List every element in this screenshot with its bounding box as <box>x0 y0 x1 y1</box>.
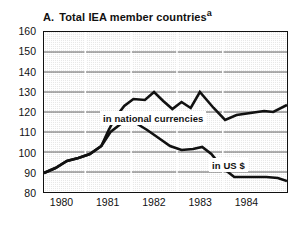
chart-title: A. Total IEA member countriesa <box>43 8 212 23</box>
y-axis-tick-label: 80 <box>2 187 36 199</box>
y-axis-tick-label: 110 <box>2 126 36 138</box>
y-axis-tick-label: 140 <box>2 66 36 78</box>
y-axis-tick-label: 160 <box>2 25 36 37</box>
y-axis-tick-label: 90 <box>2 167 36 179</box>
series-line-national-currencies <box>44 92 287 173</box>
x-axis-tick-label: 1984 <box>235 196 258 208</box>
series-label-national-currencies: in national currencies <box>100 111 206 125</box>
chart-title-main: Total IEA member countries <box>59 11 206 23</box>
x-axis-tick-label: 1980 <box>50 196 73 208</box>
y-axis-tick-label: 100 <box>2 147 36 159</box>
y-axis-tick-label: 120 <box>2 106 36 118</box>
series-paths <box>44 92 287 181</box>
footnote-marker: a <box>207 8 212 18</box>
y-axis-tick-label: 150 <box>2 45 36 57</box>
chart-title-prefix: A. <box>43 11 54 23</box>
chart-container: A. Total IEA member countriesa in nation… <box>0 0 301 235</box>
x-axis-tick-label: 1983 <box>188 196 211 208</box>
x-axis-tick-label: 1981 <box>96 196 119 208</box>
y-axis-tick-label: 130 <box>2 86 36 98</box>
x-axis-tick-label: 1982 <box>142 196 165 208</box>
series-label-in-us-dollars: in US $ <box>209 158 248 172</box>
